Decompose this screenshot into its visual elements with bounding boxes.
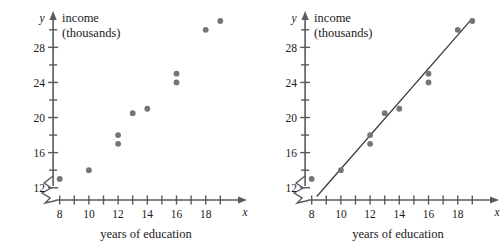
y-axis-tick-label: 16 — [285, 147, 297, 159]
data-point — [396, 106, 402, 112]
x-axis-symbol: x — [241, 206, 248, 218]
chart-panel-left: 121620242881012141618yxincome(thousands)… — [0, 0, 252, 252]
y-axis-tick-label: 20 — [34, 112, 46, 124]
y-axis-tick-label: 12 — [34, 182, 46, 194]
y-axis-tick-label: 24 — [34, 77, 46, 89]
y-axis-title: income — [314, 11, 351, 25]
x-axis-tick-label: 10 — [335, 208, 347, 220]
x-axis-tick-label: 14 — [142, 208, 154, 220]
x-axis-tick-label: 12 — [364, 208, 376, 220]
data-point — [425, 71, 431, 77]
y-axis-title-units: (thousands) — [62, 26, 120, 40]
x-axis-tick-label: 8 — [57, 208, 63, 220]
data-point — [367, 141, 373, 147]
data-point — [130, 110, 136, 116]
y-axis-tick-label: 20 — [285, 112, 297, 124]
y-axis-arrow — [50, 11, 57, 20]
x-axis-title: years of education — [100, 227, 192, 241]
right-scatter-regression-svg: 121620242881012141618yxincome(thousands)… — [252, 0, 503, 252]
y-axis-title-units: (thousands) — [314, 26, 372, 40]
data-point — [144, 106, 150, 112]
x-axis-tick-label: 14 — [393, 208, 405, 220]
x-axis-arrow — [238, 196, 247, 203]
y-axis-title: income — [62, 11, 99, 25]
data-point — [203, 27, 209, 33]
y-axis-symbol: y — [290, 12, 297, 25]
data-point — [174, 71, 180, 77]
y-axis-arrow — [301, 11, 308, 20]
y-axis-tick-label: 16 — [34, 147, 46, 159]
x-axis-tick-label: 8 — [308, 208, 314, 220]
data-point — [425, 80, 431, 86]
y-axis-tick-label: 28 — [285, 42, 297, 54]
data-point — [308, 176, 314, 182]
scatterplot-figure: 121620242881012141618yxincome(thousands)… — [0, 0, 503, 252]
x-axis-tick-label: 16 — [422, 208, 434, 220]
x-axis-tick-label: 12 — [112, 208, 124, 220]
data-point — [469, 18, 475, 24]
data-point — [381, 110, 387, 116]
x-axis-tick-label: 18 — [451, 208, 463, 220]
y-axis-symbol: y — [39, 12, 46, 25]
data-point — [57, 176, 63, 182]
y-axis-tick-label: 24 — [285, 77, 297, 89]
data-point — [217, 18, 223, 24]
x-axis-tick-label: 10 — [83, 208, 95, 220]
data-point — [337, 167, 343, 173]
y-axis-tick-label: 12 — [285, 182, 297, 194]
data-point — [367, 132, 373, 138]
data-point — [115, 141, 121, 147]
data-point — [454, 27, 460, 33]
x-axis-arrow — [490, 196, 499, 203]
data-point — [174, 80, 180, 86]
x-axis-title: years of education — [352, 227, 444, 241]
y-axis-tick-label: 28 — [34, 42, 46, 54]
x-axis-tick-label: 16 — [171, 208, 183, 220]
data-point — [86, 167, 92, 173]
chart-panel-right: 121620242881012141618yxincome(thousands)… — [252, 0, 503, 252]
x-axis-symbol: x — [493, 206, 500, 218]
left-scatter-svg: 121620242881012141618yxincome(thousands)… — [0, 0, 252, 252]
x-axis-tick-label: 18 — [200, 208, 212, 220]
data-point — [115, 132, 121, 138]
